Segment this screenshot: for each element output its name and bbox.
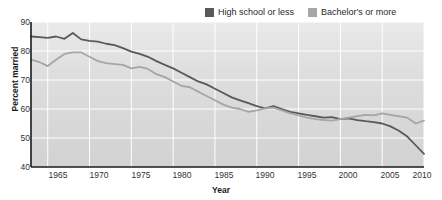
chart-figure: High school or less Bachelor's or more P…: [0, 0, 442, 200]
plot-area: [0, 0, 442, 200]
